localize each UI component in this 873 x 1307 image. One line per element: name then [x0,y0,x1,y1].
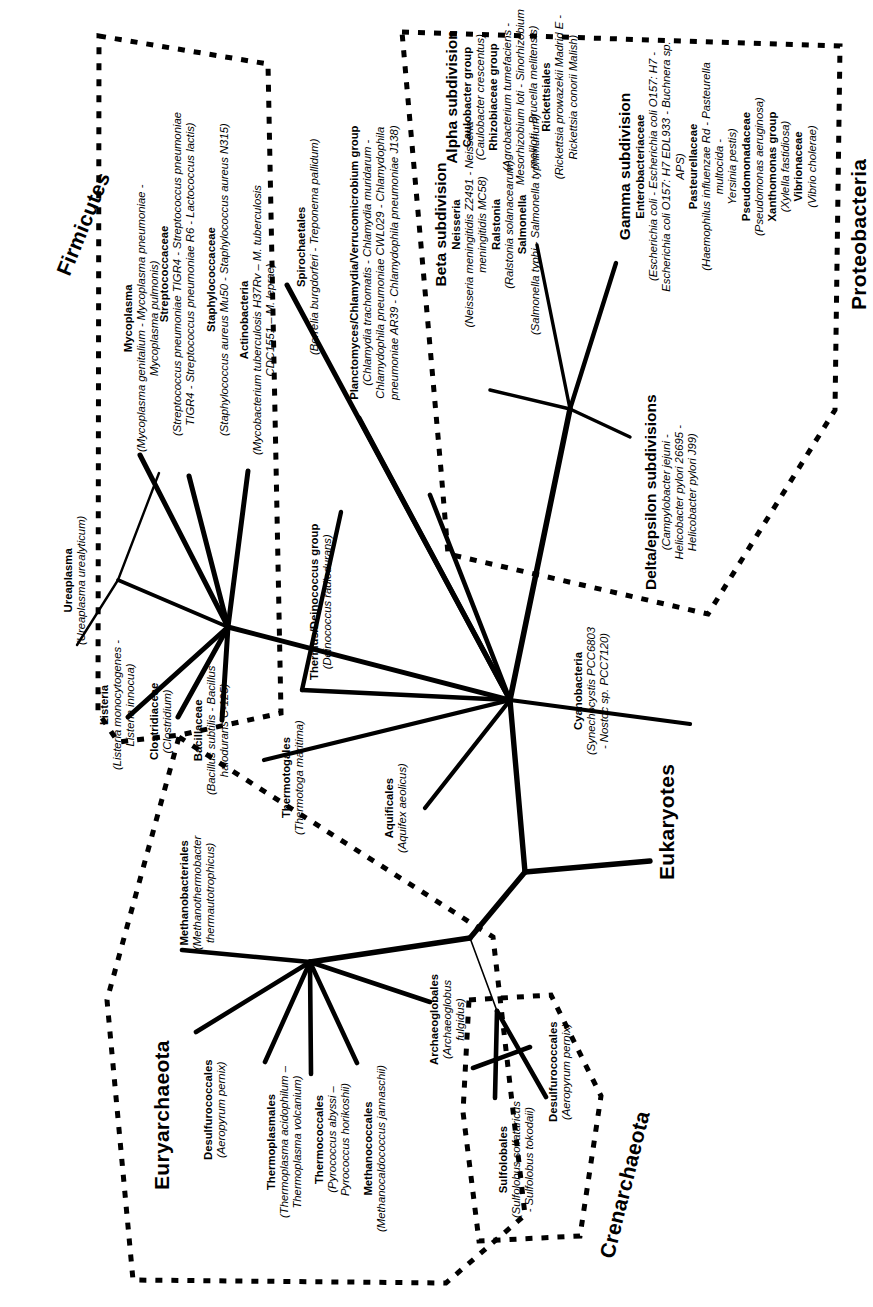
taxon-label-listeria: Listeria (Listeria monocytogenes - Liste… [98,640,138,770]
branch-sulfolobales [495,1011,497,1098]
taxon-label-sulfolobales: Sulfolobales (Sulfolobus solfataricus - … [497,1101,537,1218]
branch-actinobacteria [228,471,248,627]
branch-mycoplasma [118,473,159,580]
branch-mollicutes-stem [118,580,228,627]
taxon-label-staphylococcaceae: Staphylococcaceae (Staphylococcus aureus… [205,123,231,436]
taxon-label-thermoplasmales: Thermoplasmales (Thermoplasma acidophilu… [265,1066,305,1218]
taxon-label-thermotogales: Thermotogales (Thermotoga maritima) [280,720,306,835]
group-label-alpha-subdivision: Alpha subdivision Caulobacter group (Cau… [443,9,580,185]
branch-firmicutes-stem [228,627,510,700]
taxon-label-mycoplasma: Mycoplasma (Mycoplasma genitalium - Myco… [122,185,162,452]
branch-thermococcales [310,962,311,1074]
taxon-label-cyanobacteria: Cyanobacteria (Synechocystis PCC6803 - N… [572,627,612,755]
group-label-delta-epsilon: Delta/epsilon subdivisions (Campylobacte… [642,394,700,590]
taxon-label-methanobacteriales: Methanobacteriales (Methanothermobacter … [178,836,218,950]
branch-methanobacteriales [182,950,310,962]
branch-proteobacteria-stem [510,409,570,700]
phylogenetic-tree-figure: Firmicutes Proteobacteria Euryarchaeota … [0,0,873,1307]
domain-label-eukaryotes: Eukaryotes [655,764,679,880]
branch-eukaryotes [525,861,650,872]
branch-staphylococcaceae [189,476,228,627]
branch-alpha-extra [490,390,570,409]
taxon-label-desulfurococcales-cren: Desulfurococcales (Aeropyrum pernix) [547,1022,573,1122]
domain-label-proteobacteria: Proteobacteria [847,159,871,310]
taxon-label-methanococcales: Methanococcales (Methanocaldococcus jann… [362,1065,388,1232]
taxon-label-clostridiaceae: Clostridiaceae (Clostridium) [148,683,174,760]
taxon-label-ureaplasma: Ureaplasma (Ureaplasma urealyticum) [62,516,88,645]
taxon-label-planctomyces: Planctomyces/Chlamydia/Verrucomicrobium … [348,125,401,400]
taxon-label-desulfurococcales-eury: Desulfurococcales (Aeropyrum pernix) [202,1060,228,1160]
taxon-label-spirochaetales: Spirochaetales (Borrelia burgdorferi - T… [295,139,321,355]
branch-gamma-subdivision [570,263,616,409]
taxon-label-streptococcaceae: Streptococcaceae (Streptococcus pneumoni… [158,112,198,436]
branch-delta-epsilon [570,409,630,437]
taxon-label-archaeoglobales: Archaeoglobales (Archaeoglobus fulgidus) [428,974,468,1065]
domain-label-euryarchaeota: Euryarchaeota [150,1040,174,1190]
taxon-label-aquificales: Aquificales (Aquifex aeolicus) [383,763,409,853]
taxon-label-thermus-deinococcus: Thermus/Deinococcus group (Deinococcus r… [308,524,334,680]
branch-streptococcaceae [140,455,228,627]
branch-planctomyces [359,418,510,700]
branch-root-stem [510,700,525,872]
branch-euryarchaeota-stem [310,938,470,962]
branch-archaea-stem [470,872,525,938]
taxon-label-actinobacteria: Actinobacteria (Mycobacterium tuberculos… [238,185,278,455]
branch-beta-subdivision [430,495,510,700]
taxon-label-bacillaceae: Bacillaceae (Bacillus subtilis - Bacillu… [192,666,232,795]
taxon-label-thermococcales: Thermococcales (Pyrococcus abyssi – Pyro… [313,1083,353,1196]
group-label-gamma-subdivision: Gamma subdivision Enterobacteriaceae (Es… [616,38,819,295]
